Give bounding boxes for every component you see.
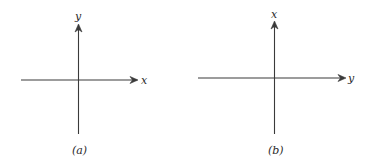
horizontal-axis-label-a: x (141, 74, 148, 87)
caption-b: (b) (268, 144, 284, 157)
caption-a: (a) (72, 144, 87, 157)
coordinate-diagrams: x y (a) y x (b) (0, 0, 374, 166)
vertical-axis-label-a: y (74, 10, 82, 23)
vertical-axis-label-b: x (271, 8, 278, 21)
diagram-b: y x (b) (198, 8, 355, 157)
horizontal-axis-label-b: y (347, 72, 355, 85)
diagram-a: x y (a) (21, 10, 148, 157)
